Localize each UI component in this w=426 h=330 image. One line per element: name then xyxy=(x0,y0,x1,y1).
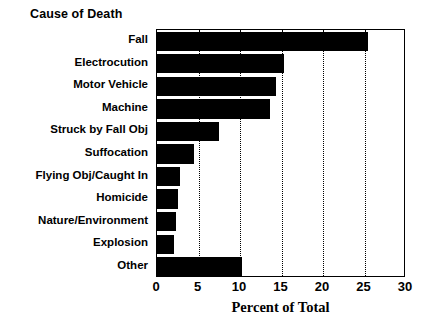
bar xyxy=(157,167,180,186)
x-tick-label: 0 xyxy=(152,279,159,294)
bar xyxy=(157,32,368,51)
bar-row xyxy=(157,167,404,186)
bar xyxy=(157,99,270,118)
bar-row xyxy=(157,77,404,96)
bar-row xyxy=(157,257,404,276)
category-label: Explosion xyxy=(93,237,148,249)
bar-row xyxy=(157,235,404,254)
bar xyxy=(157,257,242,276)
bar xyxy=(157,122,219,141)
category-label: Flying Obj/Caught In xyxy=(36,170,148,182)
bar xyxy=(157,235,174,254)
bar-row xyxy=(157,144,404,163)
bar xyxy=(157,77,276,96)
bar-row xyxy=(157,122,404,141)
chart-title: Cause of Death xyxy=(30,7,122,21)
category-label: Nature/Environment xyxy=(38,215,148,227)
category-label: Homicide xyxy=(96,192,148,204)
x-tick-label: 10 xyxy=(232,279,246,294)
bar-row xyxy=(157,54,404,73)
category-label: Struck by Fall Obj xyxy=(50,124,148,136)
bar-row xyxy=(157,212,404,231)
category-label: Fall xyxy=(128,34,148,46)
bar-row xyxy=(157,99,404,118)
x-axis-tick-labels: 051015202530 xyxy=(0,279,426,299)
category-axis-labels: FallElectrocutionMotor VehicleMachineStr… xyxy=(0,29,152,277)
category-label: Suffocation xyxy=(85,147,148,159)
category-label: Electrocution xyxy=(75,57,148,69)
bar-chart: Cause of Death FallElectrocutionMotor Ve… xyxy=(0,0,426,330)
bar-row xyxy=(157,189,404,208)
category-label: Machine xyxy=(102,102,148,114)
bar xyxy=(157,144,194,163)
plot-area xyxy=(156,29,405,277)
bar xyxy=(157,212,176,231)
x-tick-label: 15 xyxy=(273,279,287,294)
category-label: Other xyxy=(117,260,148,272)
x-tick-label: 30 xyxy=(398,279,412,294)
bars-layer xyxy=(157,30,404,276)
x-tick-label: 25 xyxy=(356,279,370,294)
x-tick-label: 20 xyxy=(315,279,329,294)
bar xyxy=(157,189,178,208)
bar-row xyxy=(157,32,404,51)
bar xyxy=(157,54,284,73)
x-axis-title: Percent of Total xyxy=(156,299,405,316)
x-tick-label: 5 xyxy=(194,279,201,294)
category-label: Motor Vehicle xyxy=(73,79,148,91)
